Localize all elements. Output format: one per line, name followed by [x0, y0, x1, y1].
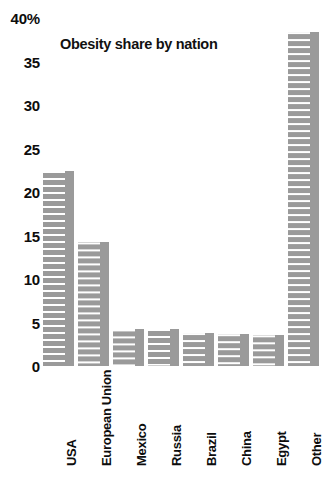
x-tick-label: Russia [169, 425, 184, 466]
bar[interactable] [253, 335, 284, 366]
bar[interactable] [288, 32, 319, 366]
bar[interactable] [113, 329, 144, 366]
x-tick-label: Mexico [134, 424, 149, 466]
bar-slot [148, 0, 179, 366]
y-tick-label: 15 [0, 228, 40, 243]
x-tick-slot: USA [43, 366, 74, 479]
y-tick-label: 30 [0, 98, 40, 113]
bar-slot [113, 0, 144, 366]
x-tick-label: China [239, 431, 254, 466]
bar[interactable] [78, 242, 109, 366]
x-tick-slot: Other [288, 366, 319, 479]
bar[interactable] [183, 333, 214, 366]
bar-chart: 0510152025303540% Obesity share by natio… [0, 0, 335, 479]
y-axis: 0510152025303540% [0, 0, 40, 479]
bar-solid-edge [170, 329, 179, 366]
bar-solid-edge [135, 329, 144, 366]
x-tick-slot: European Union [78, 366, 109, 479]
bar-solid-edge [100, 242, 109, 366]
x-tick-slot: Mexico [113, 366, 144, 479]
bar-solid-edge [65, 171, 74, 366]
bar-slot [78, 0, 109, 366]
bar-slot [253, 0, 284, 366]
bar-solid-edge [240, 334, 249, 366]
y-tick-label: 25 [0, 141, 40, 156]
x-tick-label: Egypt [274, 431, 289, 466]
x-tick-slot: China [218, 366, 249, 479]
bar-solid-edge [310, 32, 319, 366]
bar[interactable] [43, 171, 74, 366]
bar-slot [183, 0, 214, 366]
bar-solid-edge [205, 333, 214, 366]
bar-slot [43, 0, 74, 366]
bar[interactable] [148, 329, 179, 366]
y-tick-label: 10 [0, 272, 40, 287]
x-tick-slot: Egypt [253, 366, 284, 479]
x-tick-slot: Russia [148, 366, 179, 479]
x-tick-label: USA [64, 439, 79, 466]
x-axis: USAEuropean UnionMexicoRussiaBrazilChina… [43, 366, 323, 479]
bar[interactable] [218, 334, 249, 366]
plot-area [43, 0, 323, 366]
x-tick-label: European Union [99, 370, 114, 466]
bar-slot [288, 0, 319, 366]
y-tick-label: 35 [0, 54, 40, 69]
y-tick-label: 0 [0, 359, 40, 374]
x-tick-slot: Brazil [183, 366, 214, 479]
bar-solid-edge [275, 335, 284, 366]
bar-slot [218, 0, 249, 366]
y-tick-label: 5 [0, 315, 40, 330]
x-tick-label: Brazil [204, 432, 219, 466]
y-tick-label: 40% [0, 11, 40, 26]
y-tick-label: 20 [0, 185, 40, 200]
x-tick-label: Other [309, 433, 324, 466]
